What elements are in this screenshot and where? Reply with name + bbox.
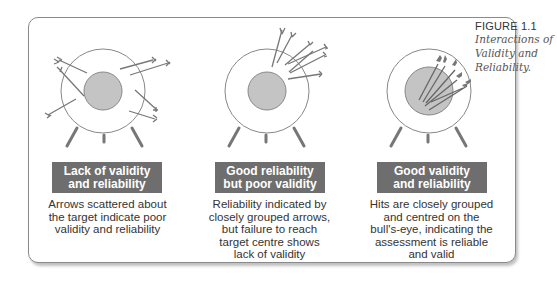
panel-description: Hits are closely grouped and centred on … (359, 198, 504, 261)
figure-title: Interactions of Validity and Reliability… (475, 32, 557, 74)
target-scattered-arrows-icon (35, 18, 185, 158)
panel-description: Arrows scattered about the target indica… (35, 198, 180, 236)
panel-good-reliability-poor-validity: Good reliability but poor validity Relia… (197, 18, 347, 264)
panel-label: Lack of validity and reliability (52, 162, 162, 193)
diagram-frame: Lack of validity and reliability Arrows … (28, 17, 516, 263)
figure-caption: FIGURE 1.1 Interactions of Validity and … (475, 20, 557, 74)
target-grouped-off-centre-arrows-icon (197, 18, 347, 158)
panel-lack-of-validity: Lack of validity and reliability Arrows … (35, 18, 185, 264)
panel-label: Good reliability but poor validity (215, 162, 325, 193)
panel-description: Reliability indicated by closely grouped… (197, 198, 342, 261)
panel-label: Good validity and reliability (377, 162, 487, 193)
figure-number: FIGURE 1.1 (475, 20, 557, 32)
